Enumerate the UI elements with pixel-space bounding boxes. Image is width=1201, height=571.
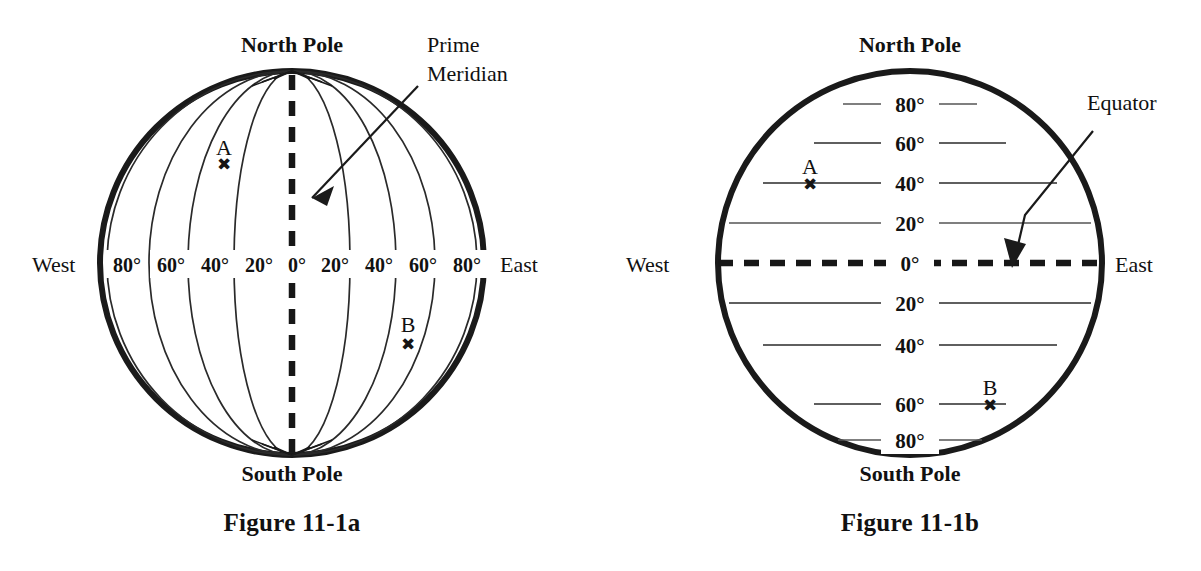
west-label: West xyxy=(32,252,75,277)
longitude-tick-3: 20° xyxy=(245,254,273,276)
point-a-group-b: A ✖ xyxy=(802,154,818,194)
longitude-tick-8: 80° xyxy=(453,254,481,276)
longitude-globe-svg: 80° 60° 40° 20° 0° 20° 40° 60° 80° A ✖ B… xyxy=(0,0,600,571)
point-a-marker-icon: ✖ xyxy=(217,154,231,174)
latitude-tick-5: 20° xyxy=(895,292,924,316)
longitude-tick-4: 0° xyxy=(288,254,306,276)
prime-meridian-callout-leader xyxy=(312,86,418,206)
west-label: West xyxy=(626,252,669,277)
figure-b-caption: Figure 11-1b xyxy=(841,509,980,536)
north-pole-label: North Pole xyxy=(241,32,343,57)
latitude-tick-2: 40° xyxy=(895,172,924,196)
figure-page: 80° 60° 40° 20° 0° 20° 40° 60° 80° A ✖ B… xyxy=(0,0,1201,571)
figure-11-1b: 80° 60° 40° 20° 0° 20° 40° 60° 80° A ✖ B… xyxy=(600,0,1201,571)
north-pole-label: North Pole xyxy=(859,32,961,57)
point-b-group-a: B ✖ xyxy=(401,312,416,354)
prime-meridian-callout-line1: Prime xyxy=(427,32,480,57)
figure-11-1a: 80° 60° 40° 20° 0° 20° 40° 60° 80° A ✖ B… xyxy=(0,0,600,571)
longitude-tick-6: 40° xyxy=(365,254,393,276)
latitude-tick-6: 40° xyxy=(895,334,924,358)
south-pole-label: South Pole xyxy=(860,461,961,486)
latitude-tick-4: 0° xyxy=(901,252,920,276)
latitude-tick-7: 60° xyxy=(895,393,924,417)
prime-meridian-callout-line2: Meridian xyxy=(427,61,508,86)
latitude-tick-1: 60° xyxy=(895,132,924,156)
point-b-marker-icon: ✖ xyxy=(401,334,415,354)
figure-a-caption: Figure 11-1a xyxy=(223,509,360,536)
east-label: East xyxy=(1115,252,1153,277)
latitude-tick-8: 80° xyxy=(895,429,924,453)
latitude-tick-3: 20° xyxy=(895,212,924,236)
longitude-tick-5: 20° xyxy=(321,254,349,276)
longitude-tick-0: 80° xyxy=(113,254,141,276)
longitude-tick-labels: 80° 60° 40° 20° 0° 20° 40° 60° 80° xyxy=(106,250,488,278)
equator-callout-label: Equator xyxy=(1087,90,1157,115)
latitude-tick-labels: 80° 60° 40° 20° 0° 20° 40° 60° 80° xyxy=(881,90,939,454)
point-b-group-b: B ✖ xyxy=(983,375,998,415)
equator-callout-leader xyxy=(1004,131,1093,268)
longitude-tick-7: 60° xyxy=(409,254,437,276)
longitude-tick-1: 60° xyxy=(157,254,185,276)
south-pole-label: South Pole xyxy=(242,461,343,486)
latitude-tick-0: 80° xyxy=(895,93,924,117)
point-a-group-a: A ✖ xyxy=(216,135,232,174)
longitude-tick-2: 40° xyxy=(201,254,229,276)
point-a-marker-icon: ✖ xyxy=(803,174,817,194)
latitude-globe-svg: 80° 60° 40° 20° 0° 20° 40° 60° 80° A ✖ B… xyxy=(600,0,1201,571)
point-b-marker-icon: ✖ xyxy=(983,395,997,415)
east-label: East xyxy=(500,252,538,277)
